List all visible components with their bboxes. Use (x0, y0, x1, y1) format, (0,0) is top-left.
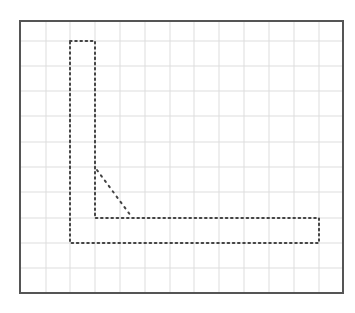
diagonal-dotted-line (97, 170, 131, 216)
grid-lines (20, 21, 343, 293)
diagram-frame (20, 21, 343, 293)
grid-diagram (0, 0, 355, 313)
